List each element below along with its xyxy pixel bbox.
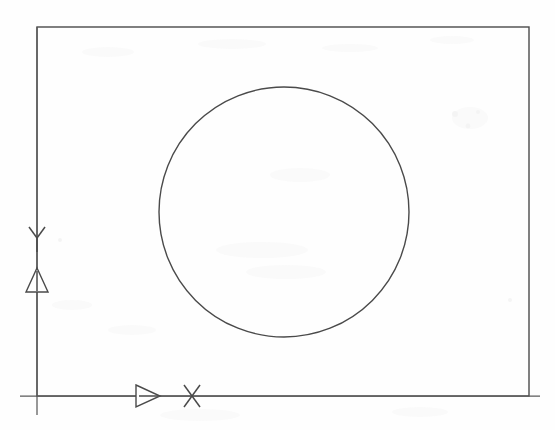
page-background bbox=[0, 0, 555, 430]
drawing-canvas: X Y bbox=[0, 0, 555, 430]
technical-drawing bbox=[0, 0, 555, 430]
